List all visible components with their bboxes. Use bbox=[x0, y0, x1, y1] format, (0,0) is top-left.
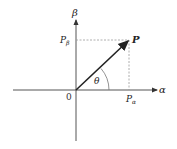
theta-arc bbox=[101, 69, 109, 91]
alpha-beta-diagram: β α 0 P Pβ Pα θ bbox=[0, 0, 177, 149]
p-alpha-label: Pα bbox=[125, 94, 136, 105]
p-beta-label: Pβ bbox=[59, 35, 70, 47]
origin-label: 0 bbox=[66, 92, 72, 102]
vector-p bbox=[76, 41, 128, 90]
point-p-label: P bbox=[131, 34, 140, 45]
theta-label: θ bbox=[94, 76, 100, 86]
beta-axis-label: β bbox=[71, 7, 78, 18]
alpha-axis-label: α bbox=[159, 84, 166, 95]
